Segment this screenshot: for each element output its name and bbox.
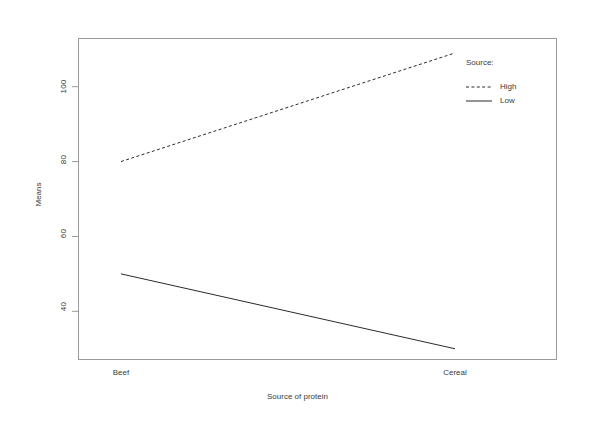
y-tick-label: 80 bbox=[59, 149, 68, 171]
dashed-line-key-icon bbox=[466, 82, 492, 92]
legend-label-high: High bbox=[500, 82, 516, 91]
legend: Source: High Low bbox=[466, 58, 552, 108]
legend-item-low: Low bbox=[466, 94, 552, 107]
y-tick-label: 40 bbox=[59, 296, 68, 318]
legend-label-low: Low bbox=[500, 96, 515, 105]
x-axis-title: Source of protein bbox=[0, 392, 595, 401]
y-tick-label: 60 bbox=[59, 223, 68, 245]
y-axis-title: Means bbox=[34, 175, 43, 215]
legend-title: Source: bbox=[466, 58, 552, 67]
y-tick-label: 100 bbox=[59, 76, 68, 98]
solid-line-key-icon bbox=[466, 96, 492, 106]
x-tick-label-cereal: Cereal bbox=[425, 368, 485, 377]
interaction-plot: 100 80 60 40 Beef Cereal Means Source of… bbox=[0, 0, 595, 426]
x-tick-label-beef: Beef bbox=[91, 368, 151, 377]
legend-item-high: High bbox=[466, 80, 552, 93]
